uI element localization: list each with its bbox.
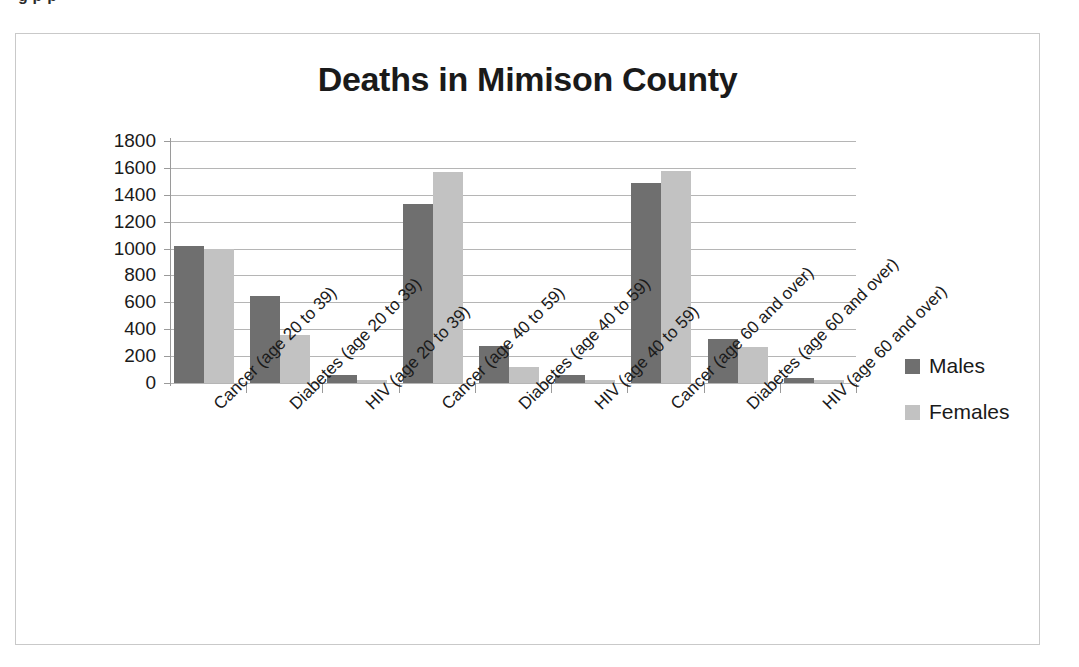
y-axis-tick xyxy=(164,141,171,142)
gridline xyxy=(170,168,856,169)
y-axis-tick-label: 400 xyxy=(86,318,156,340)
chart-title: Deaths in Mimison County xyxy=(16,60,1039,99)
y-axis-tick xyxy=(164,222,171,223)
gridline xyxy=(170,383,856,384)
legend-swatch-icon xyxy=(905,405,920,420)
y-axis-tick xyxy=(164,168,171,169)
bar-males-0 xyxy=(174,246,204,383)
y-axis-tick-label: 1800 xyxy=(86,130,156,152)
gridline xyxy=(170,222,856,223)
y-axis-tick xyxy=(164,329,171,330)
y-axis-tick-label: 800 xyxy=(86,264,156,286)
legend-label: Females xyxy=(929,400,1010,424)
y-axis-tick xyxy=(164,195,171,196)
y-axis-labels: 180016001400120010008006004002000 xyxy=(78,34,156,644)
chart-legend: MalesFemales xyxy=(905,354,1035,446)
legend-item-males[interactable]: Males xyxy=(905,354,1035,378)
y-axis-tick xyxy=(164,275,171,276)
y-axis-tick-label: 1400 xyxy=(86,184,156,206)
y-axis-tick xyxy=(164,249,171,250)
gridline xyxy=(170,249,856,250)
y-axis-tick-label: 1000 xyxy=(86,238,156,260)
y-axis-tick xyxy=(164,383,171,384)
y-axis-tick xyxy=(164,302,171,303)
y-axis-tick-label: 600 xyxy=(86,291,156,313)
chart-frame: Deaths in Mimison County 180016001400120… xyxy=(15,33,1040,645)
y-axis-tick xyxy=(164,356,171,357)
y-axis-tick-label: 0 xyxy=(86,372,156,394)
y-axis-tick-label: 200 xyxy=(86,345,156,367)
clipped-header-text: g p p xyxy=(18,0,1058,5)
y-axis-tick-label: 1200 xyxy=(86,211,156,233)
y-axis-tick-label: 1600 xyxy=(86,157,156,179)
legend-swatch-icon xyxy=(905,359,920,374)
gridline xyxy=(170,275,856,276)
gridline xyxy=(170,195,856,196)
bar-females-0 xyxy=(204,249,234,383)
legend-item-females[interactable]: Females xyxy=(905,400,1035,424)
legend-label: Males xyxy=(929,354,985,378)
gridline xyxy=(170,141,856,142)
